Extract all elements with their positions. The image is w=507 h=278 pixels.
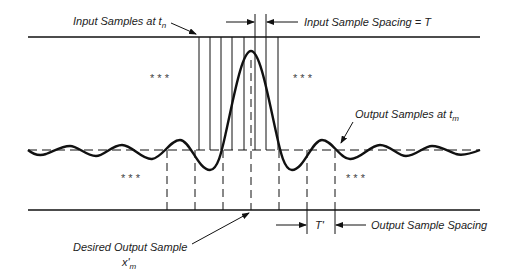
resampling-diagram: * * * * * * * * * * * * Input Samples at… (0, 0, 507, 278)
desired-output-symbol: x'm (121, 256, 137, 271)
output-spacing-label: Output Sample Spacing (371, 219, 488, 231)
ellipsis-bottom-right: * * * (346, 172, 366, 184)
input-samples-arrow (171, 23, 196, 34)
tprime-label: T' (315, 219, 325, 231)
ellipsis-bottom-left: * * * (121, 172, 141, 184)
ellipsis-top-left: * * * (150, 72, 170, 84)
output-samples-label: Output Samples at tm (355, 108, 459, 123)
input-samples-label: Input Samples at tn (73, 15, 167, 30)
input-spacing-label: Input Sample Spacing = T (304, 16, 432, 28)
desired-output-label: Desired Output Sample (73, 241, 187, 253)
input-sample-lines (199, 37, 278, 150)
output-samples-arrow (341, 122, 353, 143)
ellipsis-top-right: * * * (293, 72, 313, 84)
desired-output-arrow (192, 213, 249, 244)
